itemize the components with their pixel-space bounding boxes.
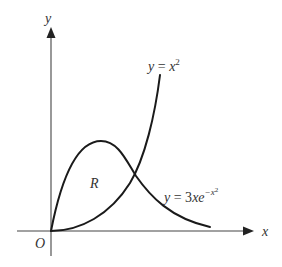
function-graph-diagram: y x O R y = x2 y = 3xe−x2 — [0, 0, 282, 267]
gaussian-equation-label: y = 3xe−x2 — [162, 186, 219, 205]
x-axis-arrow-icon — [243, 227, 254, 236]
parabola-equation-label: y = x2 — [146, 57, 180, 74]
y-axis-arrow-icon — [47, 27, 56, 38]
y-axis-label: y — [43, 11, 52, 26]
parabola-curve — [51, 75, 160, 231]
region-label: R — [89, 176, 99, 191]
origin-label: O — [35, 236, 45, 251]
gaussian-curve — [51, 141, 210, 231]
x-axis-label: x — [261, 224, 269, 239]
